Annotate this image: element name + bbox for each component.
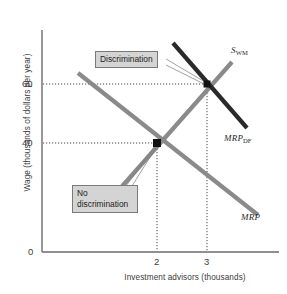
discrimination-callout-text: Discrimination: [100, 54, 153, 64]
x-tick-label-3: 3: [204, 256, 209, 267]
no-discrimination-equilibrium-marker: [153, 139, 161, 147]
mrp-curve-label: MRP: [241, 212, 260, 222]
swm-supply-curve: [117, 62, 232, 192]
no-discrimination-callout: Nodiscrimination: [72, 185, 138, 213]
swm-curve-label-subscript: WM: [236, 49, 248, 56]
y-axis-title: Wage (thousands of dollars per year): [23, 38, 32, 208]
y-tick-label-60: 60: [22, 78, 33, 89]
mrp-df-curve-label-main: MRP: [224, 133, 243, 143]
y-tick-label-40: 40: [22, 137, 33, 148]
no-discrimination-leader-line-2: [132, 146, 157, 186]
y-tick-label-0: 0: [28, 246, 33, 257]
mrp-curve-label-main: MRP: [241, 212, 260, 222]
chart-figure: Wage (thousands of dollars per year) Inv…: [0, 0, 287, 294]
no-discrimination-callout-line1: No: [77, 188, 133, 199]
x-tick-label-2: 2: [154, 256, 159, 267]
mrp-df-curve-label: MRPDF: [224, 133, 252, 143]
swm-curve-label-main: S: [231, 45, 236, 55]
discrimination-callout: Discrimination: [95, 51, 158, 68]
swm-curve-label: SWM: [231, 45, 248, 55]
no-discrimination-leader-line-1: [126, 146, 155, 186]
mrp-df-curve-label-subscript: DF: [243, 137, 251, 144]
no-discrimination-callout-line2: discrimination: [77, 199, 133, 210]
discrimination-equilibrium-marker: [204, 81, 211, 88]
x-axis-title: Investment advisors (thousands): [95, 273, 275, 282]
